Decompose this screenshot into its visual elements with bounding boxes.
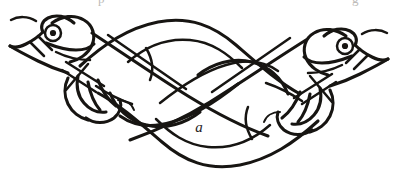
left-head-upper-jaw	[10, 32, 43, 47]
figure-page: p g	[0, 0, 398, 187]
right-neck-band-1	[354, 55, 368, 69]
left-eye-pupil	[50, 30, 56, 36]
figure-label: a	[0, 118, 398, 136]
right-head-lower-jaw	[304, 56, 352, 63]
right-head-crest-tip	[362, 30, 387, 34]
right-head	[304, 29, 388, 86]
left-head-crest-tip	[11, 17, 36, 21]
right-eye-pupil	[342, 43, 348, 49]
left-body-upper-arc-inner	[128, 40, 242, 68]
right-head-upper-jaw	[355, 45, 388, 60]
zoomorphic-interlace-drawing	[0, 0, 398, 187]
strand-left-diagonal-upper	[108, 35, 186, 89]
left-head-lower-jaw	[46, 43, 94, 50]
left-neck-band-1	[30, 42, 44, 56]
